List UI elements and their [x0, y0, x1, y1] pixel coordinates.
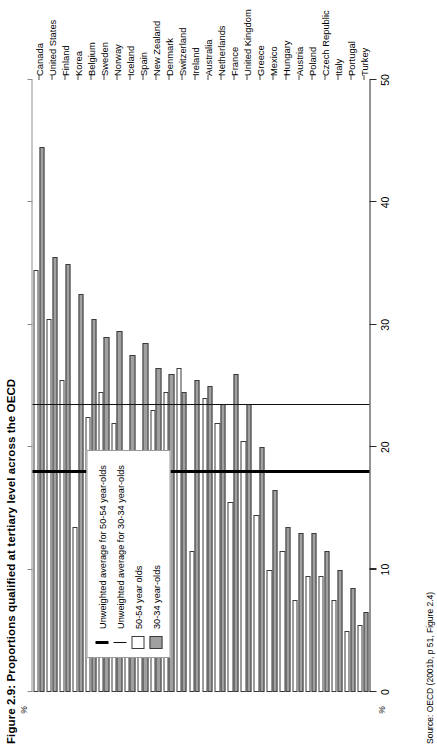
category-label: Turkey: [358, 48, 369, 76]
category-label: Greece: [254, 45, 265, 76]
bar-50-54: [202, 398, 207, 692]
bar-50-54: [305, 576, 310, 692]
bar-30-34: [259, 447, 264, 692]
legend-thin-line-icon: [113, 636, 126, 649]
bar-30-34: [337, 570, 342, 692]
x-axis-tick-top: [27, 569, 32, 570]
category-label: Korea: [72, 51, 83, 76]
category-label: Denmark: [163, 38, 174, 76]
plot-area: [32, 80, 369, 692]
bar-group-row: [318, 80, 329, 692]
x-axis-tick-label: 50: [378, 74, 390, 86]
x-axis-tick-top: [27, 324, 32, 325]
bar-50-54: [344, 631, 349, 692]
legend-white-swatch-icon: [131, 636, 144, 649]
bar-group-row: [344, 80, 355, 692]
average-line-30-34: [32, 404, 369, 405]
category-label: Iceland: [124, 46, 135, 76]
category-label: Czech Republic: [319, 10, 330, 76]
category-label: Belgium: [85, 42, 96, 76]
legend-label: Unweighted average for 50-54 year-olds: [97, 465, 107, 629]
x-axis-tick-top: [27, 446, 32, 447]
bar-group-row: [176, 80, 187, 692]
figure-title: Figure 2.9: Proportions qualified at ter…: [4, 379, 16, 744]
source-note: Source: OECD (2001b, p 51, Figure 2.4): [424, 592, 434, 744]
bar-30-34: [233, 374, 238, 692]
bar-group-row: [59, 80, 70, 692]
bar-30-34: [363, 612, 368, 692]
bar-group-row: [202, 80, 213, 692]
category-label: France: [228, 47, 239, 76]
x-axis-tick: [369, 691, 376, 692]
bar-group-row: [357, 80, 368, 692]
legend-thick-line-icon: [95, 636, 108, 649]
bar-50-54: [279, 551, 284, 692]
bar-30-34: [181, 392, 186, 692]
x-axis-tick-top: [27, 691, 32, 692]
bar-30-34: [272, 490, 277, 692]
bar-group-row: [240, 80, 251, 692]
category-label: Finland: [59, 45, 70, 76]
legend-item-avg-50-54: Unweighted average for 50-54 year-olds: [95, 465, 108, 649]
category-label-group: CanadaUnited StatesFinlandKoreaBelgiumSw…: [32, 0, 369, 80]
x-axis: 01020304050: [369, 80, 370, 692]
x-axis-tick: [369, 201, 376, 202]
bar-group-row: [46, 80, 57, 692]
category-label: United Kingdom: [241, 9, 252, 76]
bar-50-54: [240, 441, 245, 692]
bar-group-row: [279, 80, 290, 692]
legend-item-bar-50-54: 50-54 year olds: [131, 566, 144, 649]
bar-group-row: [189, 80, 200, 692]
bar-50-54: [227, 502, 232, 692]
bar-50-54: [59, 380, 64, 692]
bar-30-34: [207, 386, 212, 692]
category-label: Spain: [137, 52, 148, 76]
bar-30-34: [311, 533, 316, 692]
category-label: Poland: [306, 47, 317, 76]
x-axis-tick: [369, 324, 376, 325]
legend-label: Unweighted average for 30-34 year-olds: [115, 465, 125, 629]
x-axis-tick-top: [27, 79, 32, 80]
legend-item-avg-30-34: Unweighted average for 30-34 year-olds: [113, 465, 126, 649]
bar-group-row: [227, 80, 238, 692]
category-label: Mexico: [267, 46, 278, 76]
bar-30-34: [298, 533, 303, 692]
category-label: United States: [46, 20, 57, 76]
bar-group-row: [266, 80, 277, 692]
bar-group-row: [305, 80, 316, 692]
bar-50-54: [318, 576, 323, 692]
x-axis-tick-label: 20: [378, 441, 390, 453]
x-axis-tick-label: 40: [378, 197, 390, 209]
bar-50-54: [72, 527, 77, 692]
bar-30-34: [220, 404, 225, 692]
bar-group-row: [33, 80, 44, 692]
bar-50-54: [176, 368, 181, 692]
bar-50-54: [253, 515, 258, 692]
category-label: Norway: [111, 44, 122, 76]
bar-50-54: [266, 570, 271, 692]
bar-group-row: [72, 80, 83, 692]
bar-30-34: [246, 404, 251, 692]
category-label: Ireland: [189, 47, 200, 76]
bar-50-54: [189, 551, 194, 692]
bar-50-54: [33, 270, 38, 692]
category-label: Australia: [202, 40, 213, 76]
bar-50-54: [331, 600, 336, 692]
category-label: Canada: [33, 43, 44, 76]
x-axis-tick-top: [27, 201, 32, 202]
average-line-50-54: [32, 470, 369, 473]
bar-group: [32, 80, 369, 692]
x-axis-tick-label: 30: [378, 319, 390, 331]
bar-50-54: [46, 319, 51, 692]
bar-50-54: [357, 625, 362, 692]
legend-item-bar-30-34: 30-34 year-olds: [149, 565, 162, 649]
bar-30-34: [78, 294, 83, 692]
legend: Unweighted average for 50-54 year-oldsUn…: [86, 450, 170, 658]
bar-30-34: [39, 147, 44, 692]
x-axis-tick: [369, 79, 376, 80]
category-label: Hungary: [280, 41, 291, 76]
x-axis-tick: [369, 446, 376, 447]
category-label: Italy: [332, 59, 343, 76]
x-axis-tick: [369, 568, 376, 569]
x-axis-tick-label: 0: [378, 689, 390, 695]
